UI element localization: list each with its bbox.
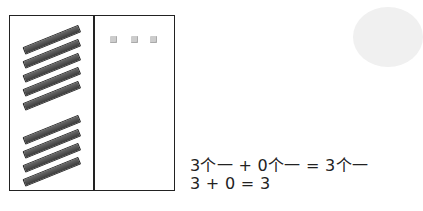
equation-words: 3个一 + 0个一 = 3个一 [190,152,368,176]
column-divider [93,16,95,190]
one-cube [150,36,157,43]
place-value-chart [9,15,175,191]
equation-numbers: 3 + 0 = 3 [190,174,270,193]
one-cube [110,36,117,43]
decorative-blob [353,7,423,67]
one-cube [131,36,138,43]
